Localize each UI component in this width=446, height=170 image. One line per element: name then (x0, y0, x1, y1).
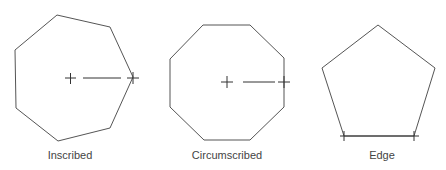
edge-pentagon (322, 25, 435, 141)
center-cross-icon (221, 76, 233, 88)
midpoint-cross-icon (278, 76, 290, 88)
circumscribed-label: Circumscribed (167, 149, 287, 161)
circumscribed-octagon (170, 25, 290, 140)
polygon-diagram (0, 0, 446, 170)
edge-label: Edge (322, 149, 442, 161)
center-cross-icon (65, 73, 76, 84)
vertex-cross-icon (127, 72, 139, 84)
inscribed-label: Inscribed (10, 149, 130, 161)
inscribed-heptagon (15, 15, 139, 141)
